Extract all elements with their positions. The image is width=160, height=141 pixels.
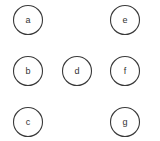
node-g: g bbox=[111, 108, 140, 137]
node-b: b bbox=[14, 57, 43, 86]
node-label: a bbox=[25, 15, 30, 25]
node-label: e bbox=[122, 15, 127, 25]
node-e: e bbox=[111, 6, 140, 35]
node-label: b bbox=[25, 66, 30, 76]
node-label: g bbox=[122, 117, 127, 127]
node-label: d bbox=[74, 66, 79, 76]
diagram-canvas: abcdefg bbox=[0, 0, 160, 141]
node-a: a bbox=[14, 6, 43, 35]
node-f: f bbox=[111, 57, 140, 86]
node-d: d bbox=[63, 57, 92, 86]
node-c: c bbox=[14, 108, 43, 137]
node-label: c bbox=[26, 117, 31, 127]
